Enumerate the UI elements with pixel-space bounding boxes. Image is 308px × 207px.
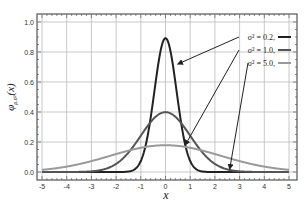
x-tick-label: -2 (113, 183, 119, 190)
x-tick-label: 5 (287, 183, 291, 190)
y-tick-labels: 0.00.20.40.60.81.0 (24, 19, 34, 176)
x-tick-label: 3 (238, 183, 242, 190)
x-tick-label: 4 (262, 183, 266, 190)
y-tick-label: 0.0 (24, 169, 34, 176)
y-tick-label: 1.0 (24, 19, 34, 26)
y-tick-label: 0.4 (24, 109, 34, 116)
y-tick-label: 0.8 (24, 49, 34, 56)
x-tick-label: -5 (39, 183, 45, 190)
x-tick-label: 1 (188, 183, 192, 190)
legend-label: σ² = 0.2, (248, 33, 275, 42)
y-tick-label: 0.6 (24, 79, 34, 86)
x-tick-label: 2 (213, 183, 217, 190)
y-axis-title-arg: (x) (4, 83, 17, 96)
x-tick-label: -3 (88, 183, 94, 190)
y-axis-title: φμ,σ²(x) (4, 83, 18, 111)
legend-label: σ² = 1.0, (248, 46, 275, 55)
y-tick-label: 0.2 (24, 139, 34, 146)
x-tick-label: -4 (64, 183, 70, 190)
legend-label: σ² = 5.0, (248, 59, 275, 68)
y-axis-title-subscript: μ,σ² (12, 95, 18, 104)
svg-text:φμ,σ²(x): φμ,σ²(x) (4, 83, 18, 111)
normal-distribution-chart: -5-4-3-2-1012345 0.00.20.40.60.81.0 σ² =… (0, 0, 308, 207)
x-tick-label: -1 (138, 183, 144, 190)
x-axis-title: x (162, 188, 169, 202)
